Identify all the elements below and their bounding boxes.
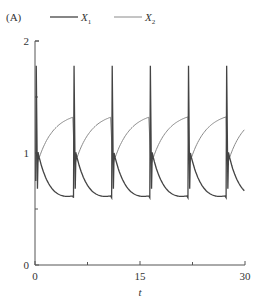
x-axis-label: t xyxy=(138,286,142,298)
series-x1 xyxy=(36,66,245,198)
x-tick-label: 30 xyxy=(240,270,252,282)
series-x2 xyxy=(37,117,244,164)
axes: 01201530t xyxy=(24,35,252,298)
x-tick-label: 15 xyxy=(135,270,147,282)
y-tick-label: 1 xyxy=(24,147,30,159)
legend-label: X2 xyxy=(144,11,156,26)
curves xyxy=(36,66,245,198)
panel-label: (A) xyxy=(6,11,22,24)
y-tick-label: 2 xyxy=(24,35,30,47)
y-tick-label: 0 xyxy=(24,259,30,271)
chart: 01201530t X1X2 (A) xyxy=(0,0,276,307)
x-tick-label: 0 xyxy=(32,270,38,282)
legend: X1X2 xyxy=(50,11,156,26)
legend-label: X1 xyxy=(80,11,92,26)
